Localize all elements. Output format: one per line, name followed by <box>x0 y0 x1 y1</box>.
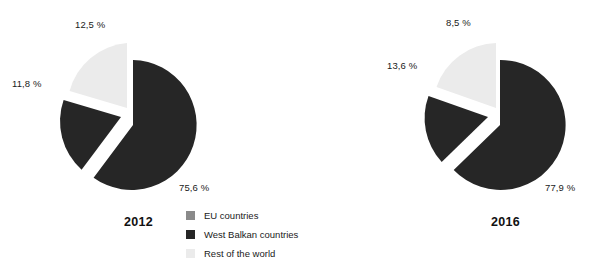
pct-label-eu-2016: 13,6 % <box>387 61 417 71</box>
pie-slice-rest-of-world-2012 <box>70 43 127 108</box>
legend-label-rest-of-the-world: Rest of the world <box>204 249 275 259</box>
legend-swatch-eu-icon <box>186 211 195 220</box>
legend-swatch-west-balkan-icon <box>186 230 195 239</box>
pie-2016 <box>300 0 605 276</box>
pct-label-west-balkan-2012: 75,6 % <box>179 183 209 193</box>
year-label-2016: 2016 <box>491 216 520 229</box>
year-label-2012: 2012 <box>124 216 153 229</box>
legend-label-eu-countries: EU countries <box>204 211 258 221</box>
legend-item-west-balkan-countries: West Balkan countries <box>186 225 326 244</box>
legend-item-eu-countries: EU countries <box>186 206 326 225</box>
pct-label-rest-of-world-2016: 8,5 % <box>446 18 471 28</box>
pie-slice-rest-of-world-2016 <box>437 43 497 108</box>
legend-swatch-rest-of-world-icon <box>186 249 195 258</box>
chart-legend: EU countries West Balkan countries Rest … <box>186 206 326 263</box>
legend-item-rest-of-the-world: Rest of the world <box>186 244 326 263</box>
chart-panel-2016: 8,5 % 13,6 % 77,9 % 2016 <box>300 0 605 276</box>
pie-chart-figure: 12,5 % 11,8 % 75,6 % 2012 8,5 % 13,6 % 7… <box>0 0 605 276</box>
pct-label-west-balkan-2016: 77,9 % <box>545 183 575 193</box>
pct-label-eu-2012: 11,8 % <box>12 79 41 89</box>
legend-label-west-balkan-countries: West Balkan countries <box>204 230 298 240</box>
pct-label-rest-of-world-2012: 12,5 % <box>75 20 105 30</box>
